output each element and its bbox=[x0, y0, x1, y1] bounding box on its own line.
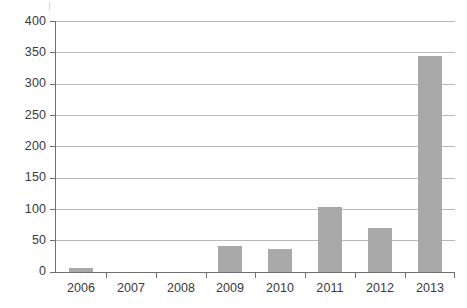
gridline bbox=[56, 84, 455, 85]
y-tick-label: 300 bbox=[2, 77, 46, 90]
gridline bbox=[56, 115, 455, 116]
gridline bbox=[56, 21, 455, 22]
gridline bbox=[56, 240, 455, 241]
x-tick-label-2009: 2009 bbox=[205, 282, 255, 295]
y-tick-label: 200 bbox=[2, 140, 46, 153]
x-tick-label-2013: 2013 bbox=[405, 282, 455, 295]
bar-2012 bbox=[368, 228, 392, 272]
x-tick-label-2006: 2006 bbox=[56, 282, 106, 295]
y-tick-label: 50 bbox=[2, 234, 46, 247]
bar-2010 bbox=[268, 249, 292, 272]
bar-2011 bbox=[318, 207, 342, 272]
x-tick-label-2007: 2007 bbox=[106, 282, 156, 295]
gridline bbox=[56, 178, 455, 179]
x-tick-label-2008: 2008 bbox=[156, 282, 206, 295]
x-axis-tick bbox=[156, 272, 157, 278]
y-tick-label: 100 bbox=[2, 203, 46, 216]
bar-2009 bbox=[218, 246, 242, 272]
gridline bbox=[56, 146, 455, 147]
x-axis-tick bbox=[106, 272, 107, 278]
y-tick-label: 250 bbox=[2, 109, 46, 122]
bar-2013 bbox=[418, 56, 442, 272]
x-axis-tick bbox=[405, 272, 406, 278]
x-axis-end-tick bbox=[454, 272, 455, 278]
y-tick-label: 350 bbox=[2, 46, 46, 59]
x-tick-label-2012: 2012 bbox=[355, 282, 405, 295]
bar-chart: 400 350 300 250 200 150 100 50 0 bbox=[0, 0, 467, 308]
y-tick-label: 150 bbox=[2, 171, 46, 184]
axis-top-stub bbox=[49, 2, 57, 11]
gridline bbox=[56, 209, 455, 210]
x-axis-tick bbox=[305, 272, 306, 278]
x-tick-label-2010: 2010 bbox=[255, 282, 305, 295]
x-axis-tick bbox=[206, 272, 207, 278]
x-axis-tick bbox=[355, 272, 356, 278]
y-tick-label: 0 bbox=[2, 265, 46, 278]
gridline bbox=[56, 52, 455, 53]
y-tick-label: 400 bbox=[2, 15, 46, 28]
x-axis-tick bbox=[255, 272, 256, 278]
plot-area bbox=[56, 21, 455, 272]
x-tick-label-2011: 2011 bbox=[305, 282, 355, 295]
y-axis-labels: 400 350 300 250 200 150 100 50 0 bbox=[0, 0, 46, 308]
